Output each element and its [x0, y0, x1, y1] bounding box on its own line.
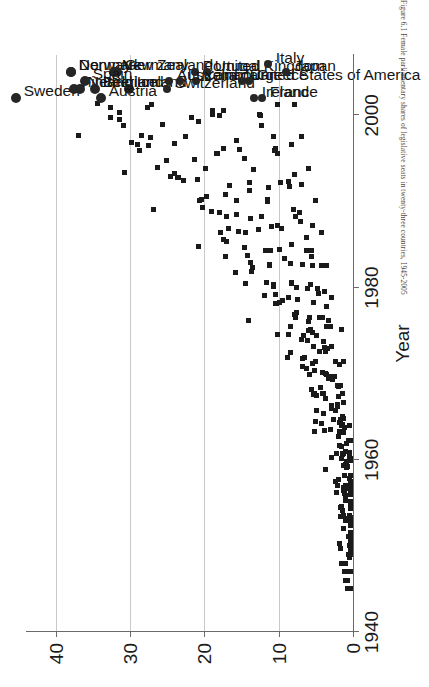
data-point-square: [341, 526, 346, 531]
data-point-square: [324, 304, 329, 309]
data-point-square: [135, 142, 140, 147]
data-point-square: [348, 569, 353, 574]
data-point-square: [312, 391, 317, 396]
figure-scatter-female-parliamentary-shares: SwedenDenmarkNorwayNetherlandsFinlandIce…: [0, 0, 429, 687]
data-point-square: [271, 284, 276, 289]
data-point-square: [336, 384, 341, 389]
data-point-square: [160, 122, 165, 127]
terminal-point-switzerland: [163, 85, 171, 93]
plot-area: SwedenDenmarkNorwayNetherlandsFinlandIce…: [26, 55, 353, 632]
data-point-square: [310, 263, 315, 268]
terminal-point-france: [258, 94, 266, 102]
year-tick-label-1980: 1980: [362, 253, 381, 323]
data-point-square: [151, 207, 156, 212]
terminal-point-greece: [245, 77, 253, 85]
data-point-square: [233, 270, 238, 275]
year-tick-1940: [354, 631, 359, 632]
data-point-square: [304, 235, 309, 240]
data-point-square: [340, 391, 345, 396]
data-point-square: [331, 417, 336, 422]
value-tick-40: [56, 632, 57, 637]
data-point-square: [313, 198, 318, 203]
data-point-square: [304, 248, 309, 253]
data-point-square: [129, 140, 134, 145]
data-point-square: [294, 285, 299, 290]
data-point-square: [221, 108, 226, 113]
data-point-square: [324, 324, 329, 329]
data-point-square: [292, 312, 297, 317]
data-point-square: [329, 295, 334, 300]
data-point-square: [223, 192, 228, 197]
data-point-square: [108, 115, 113, 120]
data-point-square: [343, 561, 348, 566]
data-point-square: [348, 438, 353, 443]
data-point-square: [172, 141, 177, 146]
data-point-square: [217, 113, 222, 118]
data-point-square: [347, 476, 352, 481]
data-point-square: [322, 289, 327, 294]
data-point-square: [332, 374, 337, 379]
data-point-square: [259, 214, 264, 219]
data-point-square: [234, 198, 239, 203]
data-point-square: [121, 123, 126, 128]
data-point-square: [348, 499, 353, 504]
data-point-square: [340, 508, 345, 513]
year-tick-label-1940: 1940: [362, 597, 381, 667]
data-point-square: [288, 350, 293, 355]
data-point-square: [314, 333, 319, 338]
data-point-square: [320, 315, 325, 320]
data-point-square: [195, 177, 200, 182]
data-point-square: [309, 248, 314, 253]
data-point-square: [285, 355, 290, 360]
data-point-square: [146, 143, 151, 148]
data-point-square: [312, 368, 317, 373]
data-point-square: [267, 263, 272, 268]
figure-caption: Figure 6.1 Female parliamentary shares o…: [399, 0, 408, 660]
data-point-square: [289, 281, 294, 286]
data-point-square: [221, 146, 226, 151]
data-point-square: [226, 226, 231, 231]
data-point-square: [278, 180, 283, 185]
data-point-square: [183, 134, 188, 139]
data-point-square: [328, 427, 333, 432]
year-tick-label-2000: 2000: [362, 80, 381, 150]
data-point-square: [242, 245, 247, 250]
data-point-square: [245, 253, 250, 258]
data-point-square: [210, 112, 215, 117]
data-point-square: [196, 244, 201, 249]
data-point-square: [309, 254, 314, 259]
data-point-square: [343, 578, 348, 583]
data-point-square: [335, 402, 340, 407]
data-point-square: [264, 280, 269, 285]
data-point-square: [345, 464, 350, 469]
gridline-value-20: [204, 55, 205, 632]
rotated-chart-canvas: SwedenDenmarkNorwayNetherlandsFinlandIce…: [0, 0, 429, 687]
data-point-square: [306, 319, 311, 324]
data-point-square: [224, 214, 229, 219]
data-point-square: [300, 364, 305, 369]
data-point-square: [246, 318, 251, 323]
value-tick-label-10: 10: [270, 643, 289, 687]
data-point-square: [329, 344, 334, 349]
data-point-square: [347, 514, 352, 519]
data-point-square: [76, 133, 81, 138]
data-point-square: [323, 371, 328, 376]
data-point-square: [203, 166, 208, 171]
data-point-square: [262, 293, 267, 298]
data-point-square: [256, 227, 261, 232]
terminal-point-sweden: [11, 93, 21, 103]
data-point-square: [271, 134, 276, 139]
data-point-square: [247, 180, 252, 185]
data-point-square: [139, 133, 144, 138]
data-point-square: [137, 148, 142, 153]
data-point-square: [314, 408, 319, 413]
data-point-square: [289, 242, 294, 247]
data-point-square: [338, 546, 343, 551]
data-point-square: [302, 355, 307, 360]
terminal-point-ireland: [250, 94, 258, 102]
data-point-square: [338, 417, 343, 422]
data-point-square: [108, 105, 113, 110]
data-point-square: [348, 586, 353, 591]
data-point-square: [117, 110, 122, 115]
data-point-square: [289, 142, 294, 147]
